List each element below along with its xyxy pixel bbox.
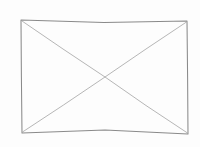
placeholder-sketch-figure bbox=[0, 0, 200, 147]
sketch-canvas bbox=[0, 0, 200, 147]
